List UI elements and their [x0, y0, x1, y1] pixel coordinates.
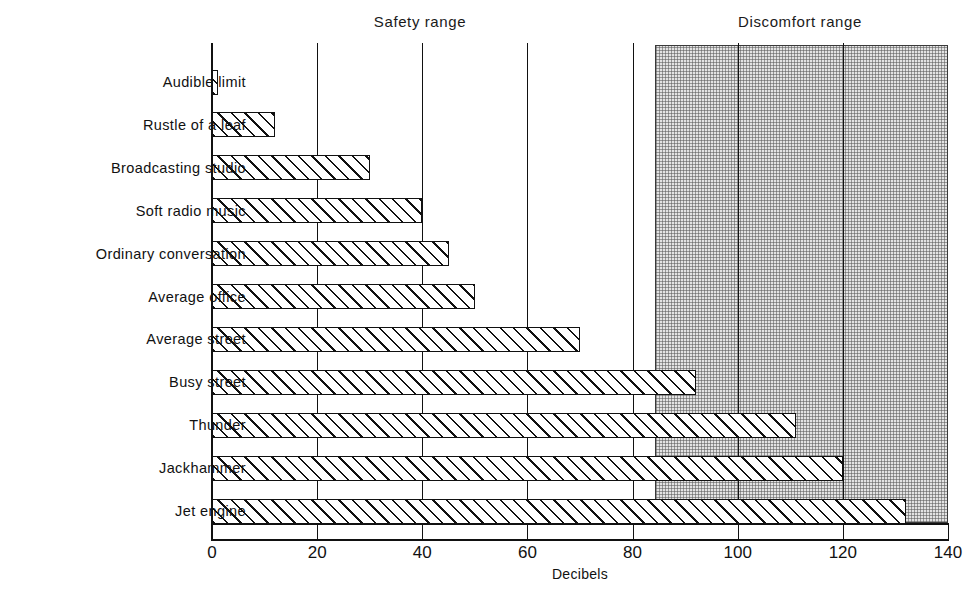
x-axis-line [211, 539, 949, 541]
bar-average-office [212, 284, 475, 309]
category-label-rustle-of-a-leaf: Rustle of a leaf [143, 117, 246, 133]
x-tick-label-120: 120 [829, 543, 857, 563]
category-label-ordinary-conversation: Ordinary conversation [96, 246, 246, 262]
bar-ordinary-conversation [212, 241, 449, 266]
safety-range-caption: Safety range [374, 13, 466, 30]
category-label-thunder: Thunder [189, 417, 246, 433]
bar-busy-street [212, 370, 696, 395]
bar-thunder [212, 413, 796, 438]
category-label-audible-limit: Audible limit [163, 74, 246, 90]
category-label-average-office: Average office [148, 289, 246, 305]
bar-jackhammer [212, 456, 843, 481]
x-axis-title: Decibels [552, 566, 608, 582]
x-tick-label-80: 80 [623, 543, 642, 563]
category-label-jackhammer: Jackhammer [159, 460, 246, 476]
x-tick-label-40: 40 [413, 543, 432, 563]
discomfort-range-caption: Discomfort range [738, 13, 862, 30]
x-tick-20 [317, 525, 318, 540]
x-tick-label-140: 140 [934, 543, 962, 563]
x-tick-60 [527, 525, 528, 540]
x-tick-120 [843, 525, 844, 540]
category-label-soft-radio-music: Soft radio music [136, 203, 246, 219]
decibels-bar-chart: Safety range Discomfort range 0204060801… [0, 0, 970, 598]
discomfort-range-band [655, 45, 948, 523]
gridline-120 [843, 43, 844, 540]
bar-jet-engine [212, 499, 906, 524]
x-tick-label-0: 0 [207, 543, 216, 563]
x-tick-80 [633, 525, 634, 540]
bar-average-street [212, 327, 580, 352]
category-label-busy-street: Busy street [169, 374, 246, 390]
category-label-average-street: Average street [146, 331, 246, 347]
category-label-broadcasting-studio: Broadcasting studio [111, 160, 246, 176]
category-label-jet-engine: Jet engine [175, 503, 246, 519]
x-tick-100 [738, 525, 739, 540]
x-tick-label-60: 60 [518, 543, 537, 563]
x-tick-40 [422, 525, 423, 540]
x-tick-label-20: 20 [308, 543, 327, 563]
x-tick-140 [948, 525, 949, 540]
x-tick-0 [212, 525, 213, 540]
x-tick-label-100: 100 [724, 543, 752, 563]
